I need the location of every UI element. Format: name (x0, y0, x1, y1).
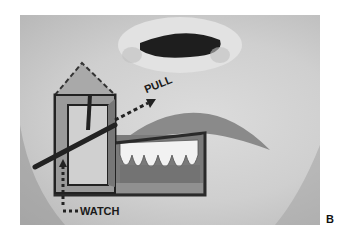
vertical-strap (88, 95, 90, 130)
watch-label: WATCH (80, 205, 120, 217)
face-photograph: PULL WATCH (20, 15, 320, 225)
figure-letter: B (326, 213, 334, 225)
nose (118, 17, 242, 73)
pull-arrow (115, 99, 156, 120)
diagram-overlay (20, 15, 320, 225)
